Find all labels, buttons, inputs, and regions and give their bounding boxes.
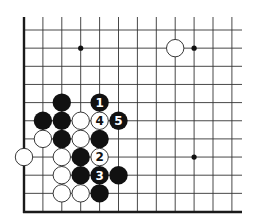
white-stone	[72, 185, 89, 202]
star-point	[192, 154, 197, 159]
black-stone-move-5: 5	[109, 112, 127, 130]
move-number-label: 1	[95, 96, 103, 110]
black-stone	[109, 166, 127, 184]
black-stone	[53, 93, 71, 111]
white-stone	[167, 39, 184, 56]
stone-body	[72, 112, 89, 129]
white-stone	[53, 185, 70, 202]
stone-body	[34, 130, 51, 147]
stone-body	[53, 93, 71, 111]
move-number-label: 5	[114, 114, 122, 128]
black-stone-move-3: 3	[90, 166, 108, 184]
stone-body	[72, 148, 90, 166]
move-number-label: 4	[95, 114, 103, 128]
stone-body	[72, 166, 90, 184]
stone-body	[72, 130, 89, 147]
stone-body	[167, 39, 184, 56]
stone-body	[53, 167, 70, 184]
black-stone	[72, 166, 90, 184]
white-stone-move-4: 4	[91, 112, 108, 129]
white-stone	[72, 112, 89, 129]
star-point	[78, 46, 83, 51]
black-stone-move-1: 1	[90, 93, 108, 111]
white-stone	[15, 148, 32, 165]
black-stone	[53, 112, 71, 130]
stone-body	[109, 166, 127, 184]
white-stone	[53, 167, 70, 184]
white-stone-move-2: 2	[91, 148, 108, 165]
go-board: 14523	[0, 0, 261, 224]
white-stone	[53, 148, 70, 165]
stone-body	[90, 130, 108, 148]
white-stone	[72, 130, 89, 147]
black-stone	[34, 112, 52, 130]
stone-body	[53, 130, 71, 148]
stone-body	[90, 184, 108, 202]
stone-body	[53, 148, 70, 165]
move-number-label: 2	[95, 150, 103, 164]
stone-body	[53, 185, 70, 202]
black-stone	[90, 130, 108, 148]
stone-body	[34, 112, 52, 130]
black-stone	[72, 148, 90, 166]
move-number-label: 3	[95, 169, 103, 183]
black-stone	[53, 130, 71, 148]
stone-body	[15, 148, 32, 165]
stone-body	[72, 185, 89, 202]
black-stone	[90, 184, 108, 202]
star-point	[192, 46, 197, 51]
stone-body	[53, 112, 71, 130]
white-stone	[34, 130, 51, 147]
